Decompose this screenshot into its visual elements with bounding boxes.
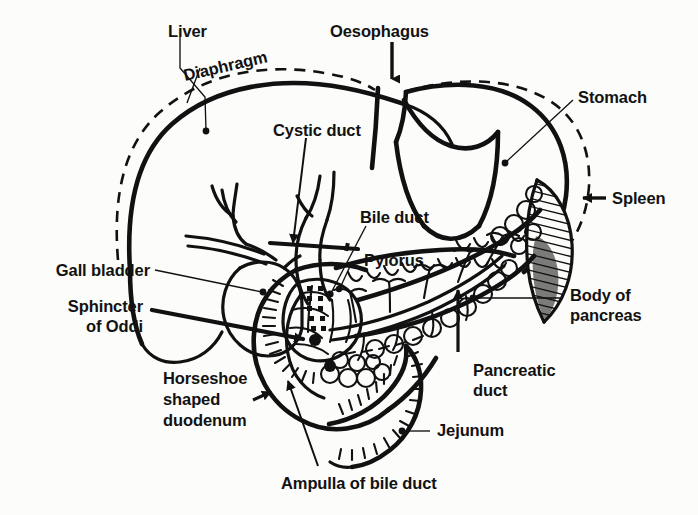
leader-sphincter-of-oddi bbox=[152, 310, 303, 339]
label-pancreatic-duct-line2: duct bbox=[473, 381, 507, 400]
label-jejunum: Jejunum bbox=[437, 421, 504, 440]
label-spleen: Spleen bbox=[612, 189, 666, 208]
leader-jejunum bbox=[399, 428, 430, 435]
label-oesophagus: Oesophagus bbox=[330, 22, 429, 41]
label-gall-bladder: Gall bladder bbox=[0, 261, 150, 280]
leader-horseshoe-duodenum bbox=[253, 392, 271, 400]
leader-cystic-duct bbox=[293, 138, 306, 243]
label-pancreatic-duct-line1: Pancreatic bbox=[473, 361, 555, 380]
label-cystic-duct: Cystic duct bbox=[273, 121, 361, 140]
label-horseshoe-duodenum-line2: shaped bbox=[163, 390, 220, 409]
label-bile-duct: Bile duct bbox=[360, 208, 429, 227]
leader-gall-bladder bbox=[155, 270, 266, 295]
hepatic-ducts bbox=[186, 184, 276, 264]
label-body-of-pancreas-line1: Body of bbox=[570, 286, 631, 305]
label-stomach: Stomach bbox=[578, 88, 647, 107]
label-pylorus: Pylorus bbox=[364, 251, 424, 270]
label-liver: Liver bbox=[168, 22, 207, 41]
label-horseshoe-duodenum-line3: duodenum bbox=[163, 411, 247, 430]
label-sphincter-of-oddi-line1: Sphincter bbox=[0, 297, 143, 316]
label-horseshoe-duodenum-line1: Horseshoe bbox=[163, 369, 247, 388]
figure-canvas: Liver Diaphragm Oesophagus Stomach Splee… bbox=[0, 0, 698, 515]
label-body-of-pancreas-line2: pancreas bbox=[570, 306, 642, 325]
label-sphincter-of-oddi-line2: of Oddi bbox=[0, 317, 143, 336]
anatomy-illustration bbox=[0, 0, 698, 515]
leader-liver bbox=[180, 37, 209, 134]
jejunum-loop bbox=[329, 346, 423, 467]
label-ampulla-of-bile-duct: Ampulla of bile duct bbox=[281, 474, 437, 493]
